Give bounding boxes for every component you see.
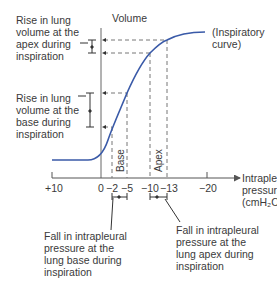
tick-minus5: −5 [121,182,133,194]
tick-minus10: −10 [141,182,159,194]
base-volume-bracket [78,93,94,127]
apex-region-label: Apex [153,149,164,172]
tick-minus2: −2 [106,182,118,194]
apex-volume-annotation: Rise in lung volume at the apex during i… [16,14,79,62]
x-axis-label: Intrapleural pressure (cmH₂O) [242,172,277,208]
y-axis-label: Volume [112,12,147,24]
apex-volume-bracket [80,40,96,53]
base-region-label: Base [115,149,126,172]
tick-minus13: −13 [160,182,178,194]
base-pressure-annotation: Fall in intrapleural pressure at the lun… [44,230,127,278]
base-volume-annotation: Rise in lung volume at the base during i… [16,92,79,140]
tick-minus20: −20 [199,182,217,194]
tick-0: 0 [98,182,104,194]
apex-pressure-bracket [150,193,180,222]
apex-pressure-annotation: Fall in intrapleural pressure at the lun… [176,224,259,272]
tick-plus10: +10 [45,182,63,194]
base-pressure-bracket [111,193,127,230]
curve-label: (Inspiratory curve) [212,26,265,50]
